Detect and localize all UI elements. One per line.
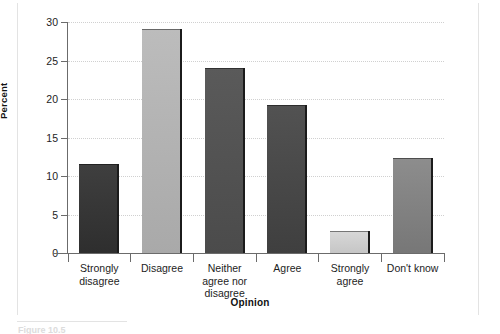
x-axis-tick bbox=[193, 253, 194, 262]
x-axis-line bbox=[53, 253, 444, 254]
category-label-line: disagree bbox=[79, 275, 119, 287]
category-label-line: Strongly bbox=[331, 262, 370, 274]
x-axis-category-label: Disagree bbox=[131, 262, 194, 275]
y-axis-tick-label: 20 bbox=[16, 94, 58, 104]
y-axis-tick bbox=[61, 138, 68, 139]
category-label-line: Disagree bbox=[141, 262, 183, 274]
y-axis-tick-label: 30 bbox=[16, 17, 58, 27]
category-label-line: Neither bbox=[208, 262, 242, 274]
figure-root: Percent 051015202530 Opinion Figure 10.5… bbox=[0, 0, 500, 334]
y-axis-tick-label: 10 bbox=[16, 171, 58, 181]
bar-top-edge bbox=[205, 68, 243, 69]
y-axis-tick bbox=[61, 22, 68, 23]
figure-border-right bbox=[478, 3, 479, 315]
bar-top-edge bbox=[79, 164, 117, 165]
y-axis-title: Percent bbox=[0, 83, 9, 119]
category-label-line: Don't know bbox=[387, 262, 439, 274]
bar[interactable] bbox=[79, 164, 119, 253]
gridline bbox=[68, 99, 444, 100]
figure-caption: Figure 10.5 bbox=[18, 325, 66, 334]
x-axis-tick bbox=[130, 253, 131, 262]
category-label-line: Strongly bbox=[80, 262, 119, 274]
x-axis-tick bbox=[318, 253, 319, 262]
gridline bbox=[68, 176, 444, 177]
gridline bbox=[68, 22, 444, 23]
x-axis-category-label: Agree bbox=[256, 262, 319, 275]
gridline bbox=[68, 215, 444, 216]
category-label-line: Agree bbox=[273, 262, 301, 274]
bar[interactable] bbox=[267, 105, 307, 253]
x-axis-category-label: Neitheragree nordisagree bbox=[193, 262, 256, 300]
x-axis-tick bbox=[256, 253, 257, 262]
y-axis-tick-label: 25 bbox=[16, 56, 58, 66]
category-label-line: agree nor bbox=[202, 275, 247, 287]
bar[interactable] bbox=[142, 29, 182, 253]
bar-top-edge bbox=[267, 105, 305, 106]
x-axis-category-label: Stronglydisagree bbox=[68, 262, 131, 287]
bar-top-edge bbox=[142, 29, 180, 30]
gridline bbox=[68, 61, 444, 62]
y-axis-tick-label: 5 bbox=[16, 210, 58, 220]
y-axis-tick-label: 15 bbox=[16, 133, 58, 143]
y-axis-tick bbox=[61, 215, 68, 216]
category-label-line: disagree bbox=[205, 287, 245, 299]
x-axis-tick bbox=[381, 253, 382, 262]
y-axis-tick bbox=[61, 61, 68, 62]
bar-top-edge bbox=[393, 158, 431, 159]
y-axis-tick-label: 0 bbox=[16, 248, 58, 258]
y-axis-tick bbox=[61, 176, 68, 177]
bar[interactable] bbox=[330, 231, 370, 253]
bar[interactable] bbox=[393, 158, 433, 253]
gridline bbox=[68, 138, 444, 139]
category-label-line: agree bbox=[337, 275, 364, 287]
plot-area bbox=[68, 22, 444, 253]
y-axis-tick bbox=[61, 99, 68, 100]
bar-top-edge bbox=[330, 231, 368, 232]
x-axis-category-label: Stronglyagree bbox=[319, 262, 382, 287]
x-axis-tick bbox=[68, 253, 69, 262]
x-axis-tick bbox=[444, 253, 445, 262]
bar[interactable] bbox=[205, 68, 245, 253]
x-axis-category-label: Don't know bbox=[381, 262, 444, 275]
y-axis-tick-labels: 051015202530 bbox=[10, 0, 58, 334]
